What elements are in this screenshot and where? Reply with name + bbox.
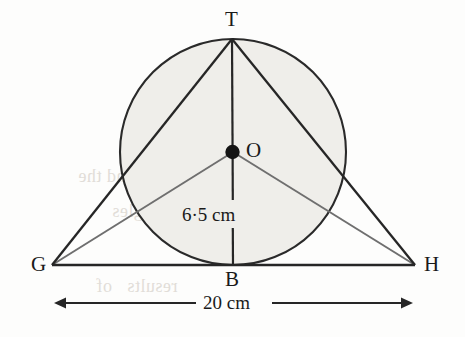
label-radius-value: 6·5 cm bbox=[182, 205, 235, 224]
label-centre-O: O bbox=[246, 140, 261, 161]
label-base-dimension: 20 cm bbox=[203, 293, 250, 312]
label-vertex-G: G bbox=[31, 254, 46, 275]
label-apex-T: T bbox=[225, 9, 238, 30]
label-vertex-H: H bbox=[424, 254, 439, 275]
label-tangent-point-B: B bbox=[225, 269, 239, 290]
centre-point-marker bbox=[225, 145, 239, 159]
geometry-figure: to CB = 12 cm and the angles results of bbox=[0, 0, 465, 337]
segment-TO bbox=[232, 39, 233, 152]
